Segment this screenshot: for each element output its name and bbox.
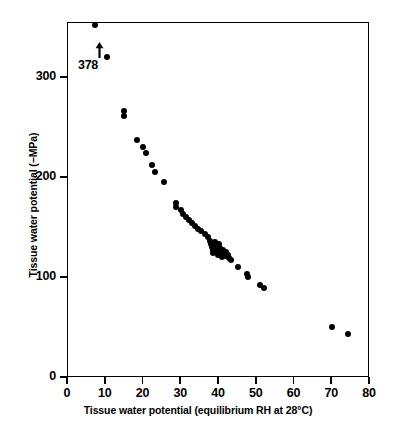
y-axis-tick-label: 300 bbox=[14, 69, 56, 83]
x-axis-tick bbox=[217, 377, 219, 384]
x-axis-tick bbox=[66, 377, 68, 384]
y-axis-tick-label: 0 bbox=[14, 369, 56, 383]
off-scale-value-label: 378 bbox=[78, 58, 98, 72]
y-axis-tick bbox=[60, 276, 67, 278]
x-axis-tick bbox=[142, 377, 144, 384]
x-axis-tick bbox=[293, 377, 295, 384]
x-axis-tick bbox=[255, 377, 257, 384]
x-axis-tick-label: 0 bbox=[47, 386, 87, 400]
x-axis-tick bbox=[368, 377, 370, 384]
x-axis-tick-label: 70 bbox=[311, 386, 351, 400]
off-scale-arrow-icon bbox=[95, 42, 104, 58]
plot-frame bbox=[67, 22, 369, 377]
x-axis-tick-label: 30 bbox=[160, 386, 200, 400]
x-axis-tick bbox=[104, 377, 106, 384]
x-axis-tick bbox=[330, 377, 332, 384]
x-axis-title: Tissue water potential (equilibrium RH a… bbox=[0, 404, 396, 416]
x-axis-tick-label: 50 bbox=[236, 386, 276, 400]
figure-scatter-plot: 010203040506070800100200300 378 Tissue w… bbox=[0, 0, 396, 437]
y-axis-tick bbox=[60, 376, 67, 378]
x-axis-tick-label: 80 bbox=[349, 386, 389, 400]
x-axis-tick-label: 60 bbox=[274, 386, 314, 400]
y-axis-title: Tissue water potential (−MPa) bbox=[27, 105, 39, 305]
x-axis-tick-label: 20 bbox=[123, 386, 163, 400]
y-axis-tick bbox=[60, 76, 67, 78]
y-axis-tick bbox=[60, 176, 67, 178]
x-axis-tick-label: 10 bbox=[85, 386, 125, 400]
x-axis-tick bbox=[179, 377, 181, 384]
x-axis-tick-label: 40 bbox=[198, 386, 238, 400]
